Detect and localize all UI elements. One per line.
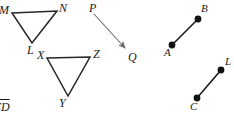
arrow-PQ-line — [94, 14, 125, 48]
triangle-MNL-shape — [12, 11, 57, 43]
point-label-B: B — [201, 3, 208, 14]
point-label-A: A — [164, 47, 171, 58]
triangle-XZY-outline — [47, 57, 90, 96]
vertex-label-L-triangle: L — [27, 44, 34, 56]
segment-AB-line — [172, 19, 198, 45]
point-label-Q: Q — [128, 51, 137, 63]
triangle-MNL-outline — [12, 11, 57, 43]
clipped-segment-notation: CD — [0, 101, 10, 113]
point-label-P: P — [89, 2, 96, 14]
point-label-L-segment: L — [225, 56, 231, 67]
point-label-C: C — [190, 101, 197, 112]
vertex-label-X: X — [37, 49, 44, 61]
segment-CL-shape — [194, 67, 225, 102]
segment-AB-shape — [169, 16, 202, 49]
endpoint-dot-B — [195, 16, 202, 23]
ray-PQ-shape — [94, 14, 125, 48]
figure-canvas — [0, 0, 234, 115]
vertex-label-Y: Y — [59, 97, 66, 109]
segment-CL-line — [197, 70, 221, 98]
vertex-label-N: N — [59, 2, 67, 14]
vertex-label-Z: Z — [93, 48, 100, 60]
triangle-XZY-shape — [47, 57, 90, 96]
geometry-figure: M N L X Z Y P Q A B C L CD — [0, 0, 234, 115]
endpoint-dot-L — [218, 67, 225, 74]
vertex-label-M: M — [0, 4, 9, 16]
